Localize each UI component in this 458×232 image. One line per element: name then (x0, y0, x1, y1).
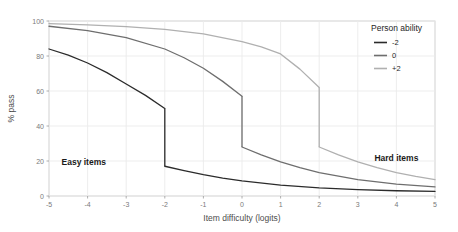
legend-label: -2 (392, 38, 399, 47)
x-tick-label: 1 (279, 201, 283, 208)
x-tick-label: -5 (46, 201, 52, 208)
x-axis-ticks: -5-4-3-2-1012345 (46, 196, 437, 208)
x-axis-title: Item difficulty (logits) (203, 213, 280, 223)
chart-svg: -5-4-3-2-1012345 020406080100 Easy items… (0, 0, 458, 232)
x-tick-label: 5 (433, 201, 437, 208)
x-tick-label: -3 (123, 201, 129, 208)
legend-title: Person ability (371, 23, 423, 33)
x-tick-label: 4 (394, 201, 398, 208)
x-tick-label: 0 (240, 201, 244, 208)
legend-label: 0 (392, 51, 396, 60)
legend-label: +2 (392, 64, 401, 73)
y-tick-label: 80 (36, 53, 44, 60)
y-axis-title: % pass (6, 95, 16, 123)
x-tick-label: 3 (356, 201, 360, 208)
y-tick-label: 100 (32, 18, 44, 25)
x-tick-label: 2 (317, 201, 321, 208)
annotation-label: Hard items (374, 153, 418, 163)
x-tick-label: -4 (84, 201, 90, 208)
y-tick-label: 40 (36, 123, 44, 130)
y-tick-label: 0 (40, 193, 44, 200)
y-tick-label: 20 (36, 158, 44, 165)
y-tick-label: 60 (36, 88, 44, 95)
x-tick-label: -2 (162, 201, 168, 208)
y-axis-ticks: 020406080100 (32, 18, 49, 200)
annotation-label: Easy items (62, 157, 107, 167)
chart-container: -5-4-3-2-1012345 020406080100 Easy items… (0, 0, 458, 232)
x-tick-label: -1 (200, 201, 206, 208)
